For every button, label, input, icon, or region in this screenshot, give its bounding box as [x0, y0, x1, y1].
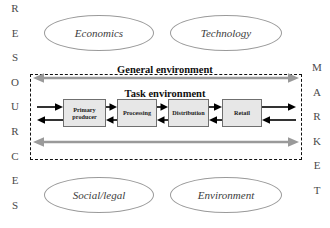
force-label-economics: Economics	[75, 27, 123, 39]
resources-letter: E	[12, 28, 19, 39]
general-environment-span-arrow	[33, 72, 299, 84]
force-label-social-legal: Social/legal	[73, 189, 126, 201]
market-letter: E	[314, 160, 321, 171]
process-box-label: Retail	[234, 109, 250, 116]
process-box-label: Primaryproducer	[72, 106, 96, 120]
resources-axis-label: R E S O U R C E S	[4, 0, 26, 228]
flow-arrows-processing-distribution	[157, 100, 168, 126]
force-ellipse-social-legal: Social/legal	[44, 177, 154, 213]
process-box-retail: Retail	[222, 99, 262, 127]
force-ellipse-environment: Environment	[170, 177, 282, 213]
resources-letter: O	[11, 77, 19, 88]
resources-letter: E	[12, 175, 19, 186]
task-environment-title: Task environment	[0, 88, 330, 99]
resources-letter: S	[12, 200, 18, 211]
resources-letter: C	[11, 151, 18, 162]
market-axis-label: M A R K E T	[306, 0, 328, 228]
market-letter: K	[313, 136, 321, 147]
process-box-distribution: Distribution	[168, 99, 209, 127]
process-box-primary-producer: Primaryproducer	[63, 99, 106, 127]
force-label-environment: Environment	[198, 189, 254, 201]
force-ellipse-economics: Economics	[44, 15, 154, 51]
market-letter: R	[313, 111, 320, 122]
flow-arrows-producer-processing	[106, 100, 117, 126]
resources-letter: R	[11, 126, 18, 137]
supply-chain-environment-diagram: R E S O U R C E S M A R K E T Economics …	[0, 0, 330, 228]
flow-arrows-distribution-retail	[209, 100, 222, 126]
flow-arrows-inbound	[37, 100, 63, 126]
resources-letter: U	[11, 101, 19, 112]
market-letter: T	[314, 185, 321, 196]
task-environment-span-arrow	[33, 136, 299, 148]
process-box-label: Processing	[123, 109, 151, 116]
flow-arrows-outbound	[262, 100, 296, 126]
resources-letter: S	[12, 52, 18, 63]
process-box-label: Distribution	[172, 109, 204, 116]
force-label-technology: Technology	[201, 27, 251, 39]
force-ellipse-technology: Technology	[170, 15, 282, 51]
resources-letter: R	[11, 3, 18, 14]
process-box-processing: Processing	[117, 99, 157, 127]
